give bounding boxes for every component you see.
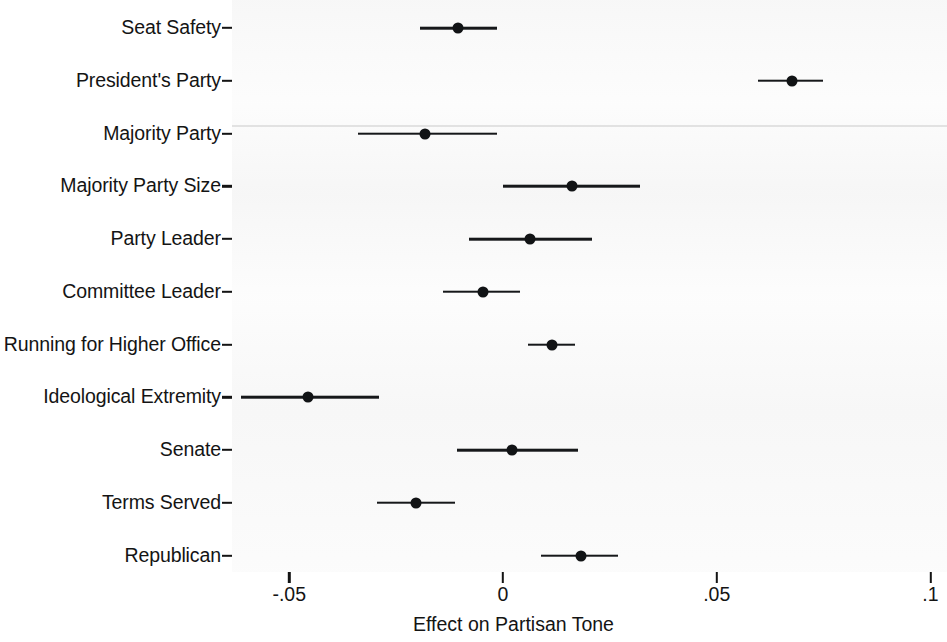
estimate-point-marker (506, 445, 517, 456)
y-axis-tick (222, 238, 232, 240)
y-axis-label: Majority Party Size (60, 177, 221, 197)
x-axis-tick-label: -.05 (272, 585, 306, 605)
estimate-point-marker (566, 181, 577, 192)
y-axis-tick (222, 27, 232, 29)
coefficient-plot-figure: Seat SafetyPresident's PartyMajority Par… (0, 0, 947, 642)
y-axis-label: Republican (124, 546, 221, 566)
y-axis-label: President's Party (76, 71, 221, 91)
estimate-point-marker (303, 392, 314, 403)
y-axis-label: Senate (160, 440, 221, 460)
x-axis-tick-label: .05 (703, 585, 730, 605)
estimate-point-marker (453, 23, 464, 34)
estimate-point-marker (547, 339, 558, 350)
y-axis-label: Party Leader (111, 229, 221, 249)
y-axis-label: Ideological Extremity (43, 388, 221, 408)
y-axis-tick (222, 502, 232, 504)
y-axis-label: Terms Served (102, 493, 221, 513)
estimate-point-marker (477, 286, 488, 297)
plot-background (232, 0, 947, 572)
estimate-point-marker (411, 497, 422, 508)
x-axis-tick (288, 572, 290, 583)
x-axis-tick (929, 572, 931, 583)
x-axis-tick-label: .1 (922, 585, 938, 605)
x-axis-tick (716, 572, 718, 583)
y-axis-label: Seat Safety (121, 18, 221, 38)
x-axis-title: Effect on Partisan Tone (0, 615, 947, 635)
x-axis-tick-label: 0 (498, 585, 509, 605)
y-axis-tick (222, 291, 232, 293)
y-axis-tick (222, 343, 232, 345)
y-axis-label: Running for Higher Office (4, 335, 221, 355)
y-axis-label: Committee Leader (62, 282, 221, 302)
scan-artifact-streak (232, 125, 947, 127)
x-axis-title-text: Effect on Partisan Tone (413, 615, 614, 635)
y-axis-tick (222, 185, 232, 187)
estimate-point-marker (420, 128, 431, 139)
y-axis-tick (222, 132, 232, 134)
y-axis-tick (222, 80, 232, 82)
x-axis-tick (502, 572, 504, 583)
y-axis-tick (222, 396, 232, 398)
y-axis-tick (222, 554, 232, 556)
estimate-point-marker (575, 550, 586, 561)
y-axis-label: Majority Party (103, 124, 221, 144)
estimate-point-marker (786, 75, 797, 86)
estimate-point-marker (524, 234, 535, 245)
y-axis-tick (222, 449, 232, 451)
